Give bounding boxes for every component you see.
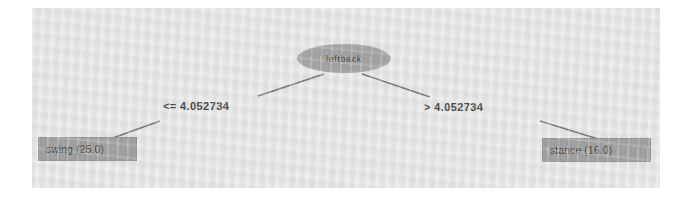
edge-right-lower	[540, 121, 598, 139]
decision-tree-canvas: leftback <= 4.052734 > 4.052734 swing (2…	[32, 8, 660, 188]
tree-leaf-stance[interactable]: stance (16.0)	[542, 138, 651, 162]
tree-leaf-swing[interactable]: swing (25.0)	[38, 137, 137, 161]
edge-right-upper	[362, 74, 430, 97]
tree-leaf-swing-label: swing (25.0)	[46, 144, 104, 155]
edge-label-left: <= 4.052734	[163, 100, 229, 112]
edge-label-right: > 4.052734	[424, 101, 483, 113]
page-background: leftback <= 4.052734 > 4.052734 swing (2…	[0, 0, 687, 216]
tree-node-root[interactable]: leftback	[297, 44, 391, 73]
tree-node-root-label: leftback	[326, 54, 362, 64]
edge-left-upper	[258, 74, 324, 96]
tree-leaf-stance-label: stance (16.0)	[550, 145, 612, 156]
